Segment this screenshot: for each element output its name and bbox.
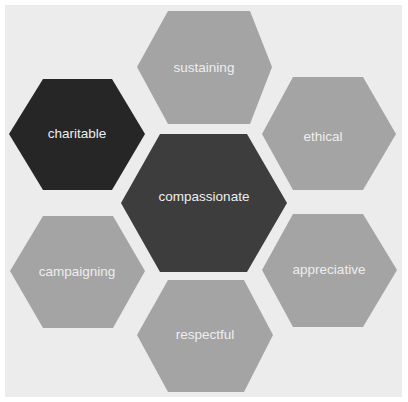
hexagon-campaigning: campaigning [10, 216, 145, 328]
hexagon-charitable: charitable [9, 79, 145, 190]
hexagon-ethical: ethical [262, 77, 396, 190]
hexagon-diagram: sustaining ethical appreciative respectf… [0, 0, 408, 402]
hexagon-label: compassionate [159, 189, 250, 204]
hexagon-label: charitable [48, 126, 107, 141]
hexagon-appreciative: appreciative [262, 214, 397, 327]
hexagon-label: respectful [176, 327, 235, 342]
hexagon-label: campaigning [39, 264, 116, 279]
hexagon-sustaining: sustaining [137, 11, 272, 124]
hexagon-respectful: respectful [137, 280, 273, 392]
hexagon-compassionate-center: compassionate [121, 134, 287, 272]
hexagon-label: appreciative [293, 262, 366, 277]
hexagon-label: ethical [303, 129, 342, 144]
hexagon-label: sustaining [174, 60, 235, 75]
